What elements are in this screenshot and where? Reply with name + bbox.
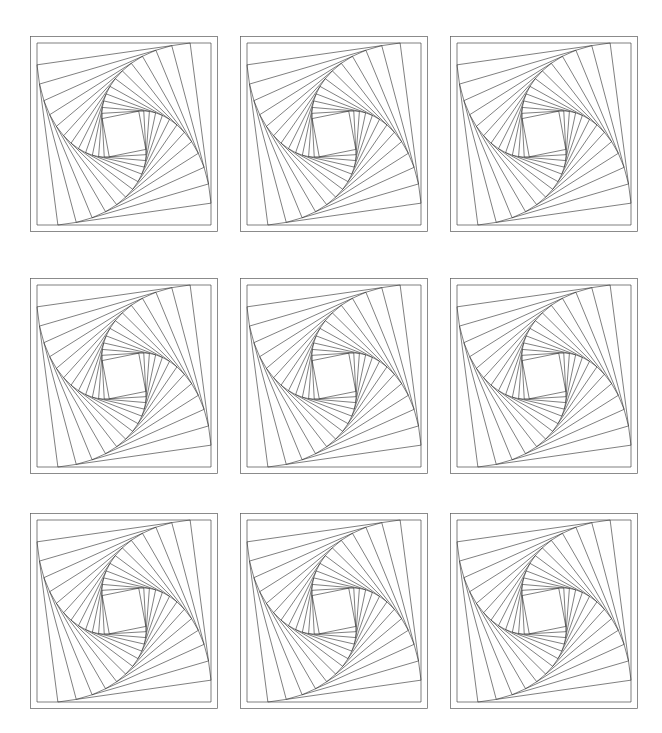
axes-frame <box>451 37 638 232</box>
nested-square-9 <box>506 94 583 174</box>
spiral-plot <box>240 36 428 232</box>
nested-square-11 <box>99 584 150 637</box>
nested-square-11 <box>519 107 570 160</box>
nested-square-9 <box>296 571 373 651</box>
nested-square-13 <box>312 111 356 157</box>
nested-square-12 <box>312 353 356 399</box>
nested-square-0 <box>37 520 211 702</box>
nested-square-4 <box>50 56 199 211</box>
nested-square-12 <box>102 588 146 634</box>
nested-square-0 <box>247 43 421 225</box>
nested-square-6 <box>274 548 395 674</box>
nested-square-13 <box>102 588 146 634</box>
nested-square-5 <box>266 540 401 681</box>
nested-square-11 <box>519 349 570 402</box>
nested-square-1 <box>457 520 631 702</box>
nested-square-5 <box>56 63 191 204</box>
nested-square-0 <box>37 43 211 225</box>
nested-square-12 <box>522 588 566 634</box>
nested-square-3 <box>44 292 204 460</box>
nested-square-0 <box>457 520 631 702</box>
nested-square-12 <box>312 111 356 157</box>
nested-square-9 <box>86 571 163 651</box>
nested-square-9 <box>86 94 163 174</box>
spiral-plot <box>30 36 218 232</box>
nested-square-1 <box>37 43 211 225</box>
nested-square-11 <box>309 584 360 637</box>
nested-square-0 <box>457 285 631 467</box>
spiral-panel <box>30 513 218 709</box>
nested-square-5 <box>266 63 401 204</box>
nested-square-6 <box>484 548 605 674</box>
figure-canvas <box>0 0 662 733</box>
nested-square-3 <box>254 50 414 218</box>
nested-square-0 <box>457 43 631 225</box>
nested-square-6 <box>64 313 185 439</box>
spiral-panel <box>450 513 638 709</box>
nested-square-9 <box>296 94 373 174</box>
nested-square-1 <box>37 520 211 702</box>
spiral-plot <box>450 36 638 232</box>
spiral-panel <box>240 278 428 474</box>
nested-square-5 <box>266 305 401 446</box>
axes-frame <box>31 514 218 709</box>
axes-frame <box>241 514 428 709</box>
nested-square-4 <box>260 298 409 453</box>
nested-square-0 <box>247 520 421 702</box>
nested-square-6 <box>274 313 395 439</box>
nested-square-3 <box>254 527 414 695</box>
nested-square-5 <box>476 540 611 681</box>
spiral-plot <box>240 278 428 474</box>
nested-square-7 <box>491 321 597 432</box>
spiral-panel <box>240 513 428 709</box>
nested-square-5 <box>56 305 191 446</box>
nested-square-5 <box>56 540 191 681</box>
nested-square-7 <box>281 321 387 432</box>
nested-square-12 <box>522 111 566 157</box>
nested-square-6 <box>64 548 185 674</box>
nested-square-1 <box>457 285 631 467</box>
nested-square-6 <box>484 313 605 439</box>
nested-square-1 <box>37 285 211 467</box>
nested-square-13 <box>102 353 146 399</box>
nested-square-13 <box>522 111 566 157</box>
nested-square-5 <box>476 63 611 204</box>
nested-square-13 <box>522 353 566 399</box>
nested-square-11 <box>99 349 150 402</box>
spiral-panel <box>450 36 638 232</box>
nested-square-13 <box>522 588 566 634</box>
spiral-plot <box>240 513 428 709</box>
nested-square-12 <box>522 353 566 399</box>
nested-square-7 <box>281 79 387 190</box>
nested-square-7 <box>71 79 177 190</box>
nested-square-5 <box>476 305 611 446</box>
axes-frame <box>451 279 638 474</box>
axes-frame <box>241 37 428 232</box>
nested-square-4 <box>50 298 199 453</box>
nested-square-4 <box>260 56 409 211</box>
nested-square-9 <box>86 336 163 416</box>
nested-square-3 <box>464 50 624 218</box>
nested-square-4 <box>470 298 619 453</box>
nested-square-7 <box>281 556 387 667</box>
nested-square-3 <box>464 527 624 695</box>
nested-square-4 <box>50 533 199 688</box>
nested-square-4 <box>260 533 409 688</box>
nested-square-11 <box>309 107 360 160</box>
nested-square-9 <box>296 336 373 416</box>
nested-square-4 <box>470 533 619 688</box>
nested-square-3 <box>44 527 204 695</box>
nested-square-1 <box>247 285 421 467</box>
spiral-panel <box>450 278 638 474</box>
nested-square-6 <box>484 71 605 197</box>
nested-square-1 <box>247 520 421 702</box>
nested-square-7 <box>491 79 597 190</box>
spiral-plot <box>30 278 218 474</box>
nested-square-1 <box>457 43 631 225</box>
spiral-plot <box>450 513 638 709</box>
nested-square-12 <box>102 111 146 157</box>
spiral-plot <box>30 513 218 709</box>
nested-square-12 <box>102 353 146 399</box>
spiral-panel <box>240 36 428 232</box>
nested-square-11 <box>99 107 150 160</box>
